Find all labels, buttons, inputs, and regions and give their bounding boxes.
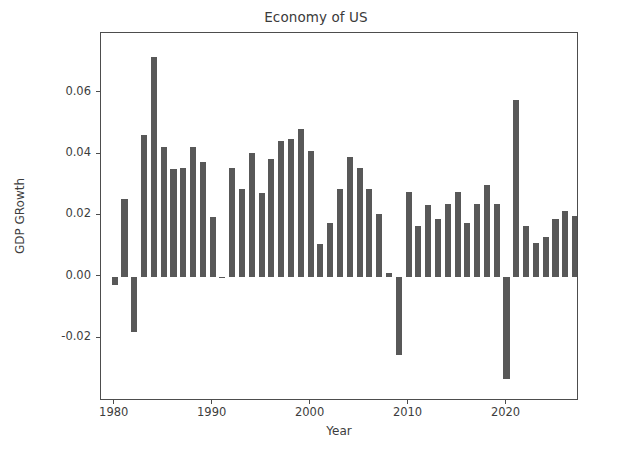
bar-series-area [101, 33, 577, 399]
x-tick-mark [309, 400, 310, 404]
bar [317, 244, 323, 277]
bar [386, 273, 392, 277]
x-tick-label: 2000 [295, 405, 324, 419]
bar [435, 219, 441, 276]
bar [337, 189, 343, 277]
bar [278, 141, 284, 277]
bar [415, 226, 421, 277]
y-tick-label: 0.06 [0, 84, 91, 98]
bar [141, 135, 147, 277]
y-tick-label: 0.04 [0, 145, 91, 159]
bar [239, 189, 245, 276]
bar [523, 226, 529, 277]
bar [229, 168, 235, 277]
bar [327, 223, 333, 276]
bar [562, 211, 568, 277]
bar [219, 277, 225, 278]
bar [406, 192, 412, 277]
bar [180, 168, 186, 277]
bar [151, 57, 157, 277]
bar [552, 219, 558, 277]
bar [190, 147, 196, 277]
y-tick-label: 0.02 [0, 206, 91, 220]
chart-title: Economy of US [0, 9, 632, 25]
bar [170, 169, 176, 277]
bar [455, 192, 461, 277]
bar [121, 199, 127, 277]
bar [357, 168, 363, 277]
x-tick-mark [211, 400, 212, 404]
bar [366, 189, 372, 277]
x-tick-mark [407, 400, 408, 404]
plot-axes [100, 32, 578, 400]
bar [484, 185, 490, 277]
bar [533, 243, 539, 277]
bar [513, 100, 519, 277]
bar [474, 204, 480, 276]
bar [464, 223, 470, 277]
bar [288, 139, 294, 277]
bar [131, 277, 137, 332]
y-tick-label: 0.00 [0, 268, 91, 282]
bar [259, 193, 265, 277]
x-axis-label: Year [100, 424, 578, 438]
bar [445, 204, 451, 277]
bar [503, 277, 509, 379]
bar [112, 277, 118, 285]
bar [425, 205, 431, 277]
x-tick-mark [113, 400, 114, 404]
bar [210, 217, 216, 276]
matplotlib-figure: Economy of US GDP GRowth -0.020.000.020.… [0, 0, 632, 473]
bar [161, 147, 167, 277]
y-tick-label: -0.02 [0, 329, 91, 343]
bar [249, 153, 255, 277]
bar [396, 277, 402, 355]
x-tick-mark [505, 400, 506, 404]
bar [347, 157, 353, 277]
bar [543, 237, 549, 277]
bar [572, 216, 577, 277]
bar [376, 214, 382, 277]
bar [298, 129, 304, 277]
x-tick-label: 2010 [393, 405, 422, 419]
x-tick-label: 2020 [491, 405, 520, 419]
bar [268, 159, 274, 277]
x-tick-label: 1980 [99, 405, 128, 419]
x-tick-label: 1990 [197, 405, 226, 419]
bar [308, 151, 314, 277]
bar [494, 204, 500, 277]
bar [200, 162, 206, 277]
